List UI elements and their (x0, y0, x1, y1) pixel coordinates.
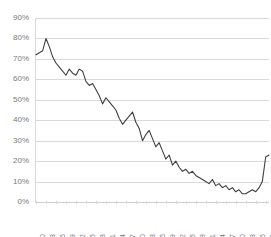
x-tick-mark (246, 201, 247, 204)
y-tick-label: 40% (13, 116, 29, 124)
x-tick-label: 1965 (89, 234, 97, 237)
x-axis-tick-labels: 1950195319561959196219651968197119741977… (36, 204, 269, 237)
x-tick-mark (36, 201, 37, 204)
y-tick-label: 80% (13, 34, 29, 42)
y-tick-label: 20% (13, 157, 29, 165)
x-tick-mark (256, 201, 257, 204)
x-tick-label: 1953 (49, 234, 57, 237)
x-tick-label: 1989 (169, 234, 177, 237)
x-tick-label: 2010 (239, 234, 247, 237)
x-tick-label: 2004 (219, 234, 227, 237)
x-tick-mark (176, 201, 177, 204)
x-tick-label: 1977 (129, 234, 137, 237)
series-line (36, 18, 269, 202)
x-tick-mark (126, 201, 127, 204)
x-tick-label: 1962 (79, 234, 87, 237)
x-tick-mark (166, 201, 167, 204)
x-tick-mark (86, 201, 87, 204)
y-tick-label: 30% (13, 137, 29, 145)
x-tick-mark (106, 201, 107, 204)
x-tick-mark (96, 201, 97, 204)
plot-area (36, 18, 269, 202)
x-tick-mark (56, 201, 57, 204)
x-tick-label: 1956 (59, 234, 67, 237)
y-axis-tick-labels: 0%10%20%30%40%50%60%70%80%90% (0, 0, 33, 237)
x-tick-mark (216, 201, 217, 204)
x-tick-mark (136, 201, 137, 204)
x-tick-label: 1998 (199, 234, 207, 237)
x-tick-label: 2019 (269, 234, 271, 237)
x-tick-mark (76, 201, 77, 204)
x-tick-label: 1959 (69, 234, 77, 237)
x-tick-label: 1983 (149, 234, 157, 237)
x-tick-mark (196, 201, 197, 204)
x-tick-mark (116, 201, 117, 204)
y-tick-label: 60% (13, 75, 29, 83)
x-tick-mark (186, 201, 187, 204)
x-tick-mark (156, 201, 157, 204)
x-tick-label: 1950 (39, 234, 47, 237)
x-tick-label: 1971 (109, 234, 117, 237)
x-tick-label: 2007 (229, 234, 237, 237)
gridline-0% (36, 202, 269, 203)
x-tick-mark (266, 201, 267, 204)
x-tick-label: 1986 (159, 234, 167, 237)
x-tick-mark (146, 201, 147, 204)
y-tick-label: 70% (13, 55, 29, 63)
x-tick-mark (46, 201, 47, 204)
x-tick-label: 2013 (249, 234, 257, 237)
x-tick-label: 2001 (209, 234, 217, 237)
x-tick-label: 1995 (189, 234, 197, 237)
x-tick-mark (66, 201, 67, 204)
x-tick-label: 1968 (99, 234, 107, 237)
x-tick-label: 1980 (139, 234, 147, 237)
x-tick-label: 2016 (259, 234, 267, 237)
y-tick-label: 90% (13, 14, 29, 22)
y-tick-label: 0% (17, 198, 29, 206)
x-tick-mark (226, 201, 227, 204)
x-tick-mark (236, 201, 237, 204)
x-tick-label: 1974 (119, 234, 127, 237)
x-tick-label: 1992 (179, 234, 187, 237)
y-tick-label: 10% (13, 178, 29, 186)
x-tick-mark (206, 201, 207, 204)
y-tick-label: 50% (13, 96, 29, 104)
line-chart: 0%10%20%30%40%50%60%70%80%90% 1950195319… (0, 0, 271, 237)
